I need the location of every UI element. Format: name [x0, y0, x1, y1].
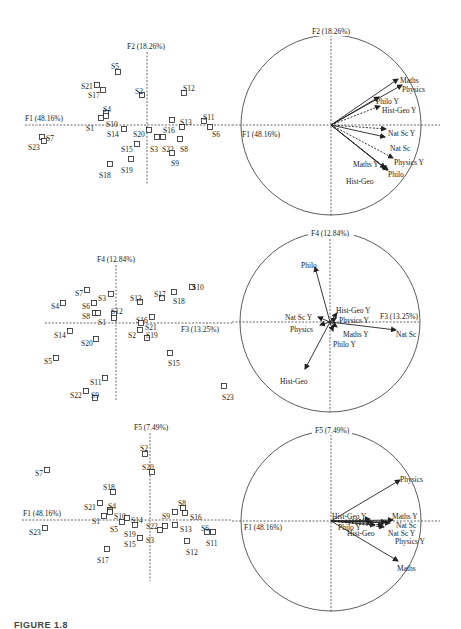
data-point-marker	[94, 337, 99, 342]
data-point-label: S19	[124, 530, 136, 539]
data-point-marker	[138, 328, 143, 333]
variable-label: Hist-Geo Y	[332, 512, 367, 521]
variable-vector	[318, 317, 330, 322]
scatter-f3-f4: F4 (12.84%) F3 (13.25%) S10S17S18S7S3S13…	[44, 255, 234, 402]
x-axis-label: F1 (48.16%)	[242, 130, 280, 139]
data-point-label: S20	[142, 463, 154, 472]
data-point-marker	[133, 523, 138, 528]
data-point-label: S9	[171, 159, 179, 168]
data-point-label: S12	[186, 548, 198, 557]
data-point-marker	[138, 536, 143, 541]
data-point-marker	[120, 520, 125, 525]
data-point-marker	[85, 288, 90, 293]
figure-canvas: F2 (18.26%) F1 (48.16%) S5S21S17S2S12S4S…	[0, 0, 461, 629]
data-point-label: S19	[146, 331, 158, 340]
data-point-label: S12	[111, 307, 123, 316]
data-point-marker	[185, 539, 190, 544]
pca-figure: F2 (18.26%) F1 (48.16%) S5S21S17S2S12S4S…	[0, 0, 461, 629]
data-point-marker	[43, 526, 48, 531]
data-point-label: S7	[75, 289, 83, 298]
data-point-label: S9	[162, 512, 170, 521]
data-point-label: S2	[128, 331, 136, 340]
data-point-label: S23	[28, 143, 40, 152]
data-point-label: S17	[154, 290, 166, 299]
data-point-label: S20	[81, 339, 93, 348]
variable-label: Hist-Geo	[346, 177, 374, 186]
variable-label: Physics	[400, 475, 423, 484]
data-point-marker	[92, 301, 97, 306]
variable-label: Physics Y	[395, 537, 426, 546]
variable-label: Nat Sc	[390, 144, 411, 153]
points-group: S10S17S18S7S3S13S4S6S8S12S1S16S21S14S2S1…	[44, 283, 234, 402]
variable-label: Nat Sc	[396, 330, 417, 339]
data-point-label: S15	[124, 540, 136, 549]
data-point-marker	[42, 139, 47, 144]
variable-label: Nat Sc Y	[285, 313, 313, 322]
data-point-marker	[168, 351, 173, 356]
data-point-label: S14	[54, 331, 66, 340]
y-axis-label: F2 (18.26%)	[312, 27, 350, 36]
scatter-f1-f2: F2 (18.26%) F1 (48.16%) S5S21S17S2S12S4S…	[25, 42, 232, 185]
data-point-label: S7	[46, 134, 54, 143]
data-point-marker	[173, 510, 178, 515]
variable-label: Philo	[301, 261, 317, 270]
data-point-marker	[222, 384, 227, 389]
data-point-marker	[170, 151, 175, 156]
data-point-label: S10	[192, 283, 204, 292]
data-point-label: S1	[86, 124, 94, 133]
data-point-label: S7	[35, 469, 43, 478]
x-axis-label: F1 (48.16%)	[23, 509, 61, 518]
x-axis-label: F3 (13.25%)	[380, 312, 418, 321]
data-point-marker	[183, 511, 188, 516]
data-point-label: S20	[133, 130, 145, 139]
variable-vector	[331, 97, 379, 125]
data-point-marker	[158, 528, 163, 533]
data-point-label: S5	[111, 62, 119, 71]
data-point-label: S11	[206, 539, 218, 548]
variable-label: Maths	[397, 564, 416, 573]
data-point-marker	[102, 514, 107, 519]
vectors-group: PhiloHist-GeoNat ScNat Sc YPhysicsHist-G…	[280, 261, 417, 386]
data-point-marker	[101, 88, 106, 93]
data-point-label: S9	[91, 391, 99, 400]
variable-vector	[315, 267, 330, 322]
variable-label: Maths Y	[353, 160, 379, 169]
variable-label: Philo Y	[376, 97, 399, 106]
data-point-label: S8	[178, 499, 186, 508]
data-point-marker	[54, 356, 59, 361]
variable-vector	[331, 125, 393, 158]
data-point-marker	[112, 316, 117, 321]
variable-label: Maths Y	[343, 330, 369, 339]
data-point-marker	[155, 135, 160, 140]
data-point-marker	[45, 468, 50, 473]
data-point-label: S18	[103, 483, 115, 492]
data-point-label: S19	[121, 166, 133, 175]
x-axis-label: F1 (48.16%)	[25, 114, 63, 123]
data-point-label: S8	[180, 145, 188, 154]
data-point-label: S13	[180, 118, 192, 127]
y-axis-label: F5 (7.49%)	[315, 426, 350, 435]
data-point-label: S18	[173, 297, 185, 306]
data-point-marker	[150, 315, 155, 320]
variable-label: Maths	[400, 76, 419, 85]
data-point-marker	[95, 83, 100, 88]
data-point-label: S11	[90, 378, 102, 387]
data-point-marker	[61, 301, 66, 306]
data-point-label: S22	[146, 522, 158, 531]
data-point-marker	[208, 125, 213, 130]
variable-label: Hist-Geo	[280, 377, 308, 386]
data-point-label: S21	[84, 503, 96, 512]
data-point-label: S4	[51, 302, 59, 311]
variable-label: Philo	[388, 170, 404, 179]
x-axis-label: F1 (48.16%)	[244, 523, 282, 532]
variable-label: Physics	[402, 85, 425, 94]
data-point-label: S3	[146, 536, 154, 545]
y-axis-label: F4 (12.84%)	[97, 255, 135, 264]
data-point-label: S6	[212, 130, 220, 139]
variable-label: Philo Y	[333, 340, 356, 349]
data-point-marker	[129, 157, 134, 162]
data-point-marker	[172, 290, 177, 295]
y-axis-label: F2 (18.26%)	[127, 42, 165, 51]
data-point-label: S23	[29, 528, 41, 537]
data-point-label: S16	[190, 513, 202, 522]
